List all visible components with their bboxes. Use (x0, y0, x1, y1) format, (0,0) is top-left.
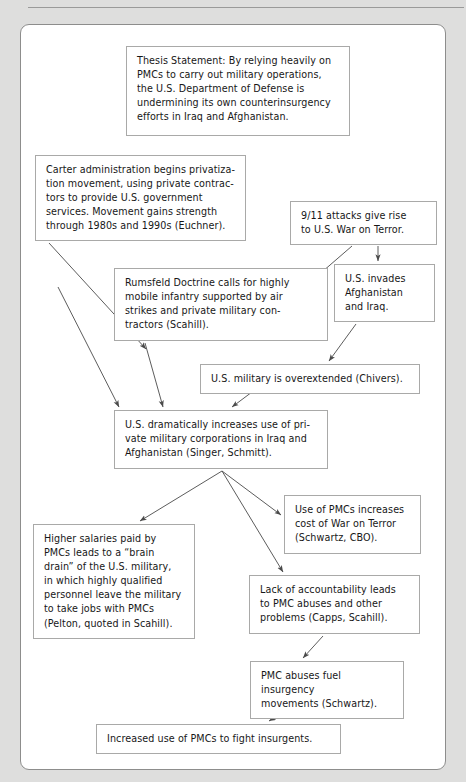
carter-administration-box: Carter administration begins privatiza- … (35, 155, 246, 241)
nine-eleven-attacks-box: 9/11 attacks give rise to U.S. War on Te… (290, 201, 437, 245)
node-text: Carter administration begins privatiza- … (46, 163, 236, 233)
military-overextended-box: U.S. military is overextended (Chivers). (200, 364, 420, 394)
pmc-abuses-fuel-insurgency-box: PMC abuses fuel insurgency movements (Sc… (250, 661, 404, 719)
node-text: Use of PMCs increases cost of War on Ter… (295, 503, 411, 545)
document-page: Thesis Statement: By relying heavily on … (0, 0, 466, 782)
us-invades-box: U.S. invades Afghanistan and Iraq. (334, 264, 435, 322)
node-text: U.S. invades Afghanistan and Iraq. (345, 272, 425, 314)
node-text: Lack of accountability leads to PMC abus… (260, 583, 410, 625)
increases-pmc-use-box: U.S. dramatically increases use of pri- … (114, 410, 328, 469)
thesis-statement-box: Thesis Statement: By relying heavily on … (126, 46, 350, 136)
node-text: U.S. dramatically increases use of pri- … (125, 418, 318, 460)
node-text: Rumsfeld Doctrine calls for highly mobil… (125, 276, 318, 332)
header-rule (28, 7, 464, 8)
rumsfeld-doctrine-box: Rumsfeld Doctrine calls for highly mobil… (114, 268, 328, 341)
lack-of-accountability-box: Lack of accountability leads to PMC abus… (249, 575, 420, 634)
header-cut-off-text (300, 0, 450, 4)
node-text: 9/11 attacks give rise to U.S. War on Te… (301, 209, 427, 237)
higher-salaries-brain-drain-box: Higher salaries paid by PMCs leads to a … (33, 524, 195, 639)
node-text: Thesis Statement: By relying heavily on … (137, 54, 340, 124)
node-text: Higher salaries paid by PMCs leads to a … (44, 532, 185, 631)
node-text: PMC abuses fuel insurgency movements (Sc… (261, 669, 394, 711)
node-text: Increased use of PMCs to fight insurgent… (107, 732, 331, 746)
cost-of-war-box: Use of PMCs increases cost of War on Ter… (284, 495, 421, 554)
increased-use-to-fight-insurgents-box: Increased use of PMCs to fight insurgent… (96, 724, 341, 754)
node-text: U.S. military is overextended (Chivers). (211, 372, 410, 386)
